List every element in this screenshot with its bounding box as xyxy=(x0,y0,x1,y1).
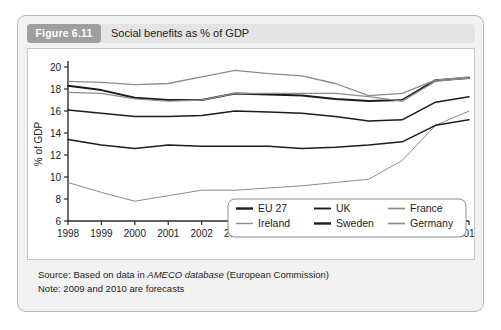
chart-plot-area: 6810121416182019981999200020012002200320… xyxy=(28,49,474,259)
chart-legend: EU 27UKFranceIrelandSwedenGermany xyxy=(228,199,466,237)
source-suffix: (European Commission) xyxy=(224,269,329,280)
legend-label-sweden: Sweden xyxy=(336,217,374,229)
figure-card: Figure 6.11 Social benefits as % of GDP … xyxy=(17,15,484,312)
y-tick-label: 6 xyxy=(55,216,61,227)
line-chart-svg: 6810121416182019981999200020012002200320… xyxy=(28,49,474,259)
series-line-ireland xyxy=(68,111,469,201)
figure-number-badge: Figure 6.11 xyxy=(27,24,101,43)
chart-series-group xyxy=(68,70,469,201)
source-line: Source: Based on data in AMECO database … xyxy=(38,268,468,282)
source-italic: AMECO database xyxy=(147,269,224,280)
legend-label-eu-27: EU 27 xyxy=(258,202,287,214)
chart-panel: 6810121416182019981999200020012002200320… xyxy=(27,48,475,260)
source-prefix: Source: Based on data in xyxy=(38,269,147,280)
series-line-sweden xyxy=(68,120,469,149)
x-tick-label: 2001 xyxy=(157,228,180,239)
legend-label-ireland: Ireland xyxy=(258,217,290,229)
legend-label-uk: UK xyxy=(336,202,351,214)
y-tick-label: 8 xyxy=(55,194,61,205)
series-line-germany xyxy=(68,78,469,101)
figure-title: Social benefits as % of GDP xyxy=(111,24,249,43)
y-tick-label: 10 xyxy=(50,172,62,183)
legend-label-france: France xyxy=(410,202,443,214)
x-tick-label: 1999 xyxy=(90,228,113,239)
y-tick-label: 12 xyxy=(50,150,62,161)
x-tick-label: 1998 xyxy=(57,228,80,239)
y-tick-label: 16 xyxy=(50,106,62,117)
y-tick-label: 20 xyxy=(50,62,62,73)
x-tick-label: 2002 xyxy=(191,228,214,239)
series-line-uk xyxy=(68,97,469,121)
figure-header: Figure 6.11 Social benefits as % of GDP xyxy=(27,24,475,43)
legend-label-germany: Germany xyxy=(410,217,454,229)
y-axis-title: % of GDP xyxy=(33,121,44,166)
x-tick-label: 2000 xyxy=(124,228,147,239)
y-tick-label: 18 xyxy=(50,84,62,95)
figure-footnotes: Source: Based on data in AMECO database … xyxy=(38,268,468,295)
note-line: Note: 2009 and 2010 are forecasts xyxy=(38,282,468,296)
series-line-france xyxy=(68,70,469,95)
y-tick-label: 14 xyxy=(50,128,62,139)
